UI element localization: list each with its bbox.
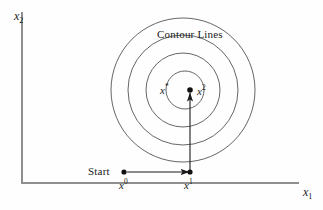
y-axis-label: x2: [14, 10, 23, 26]
contour-lines-label: Contour Lines: [157, 29, 223, 40]
optimum-point-label: x*: [160, 83, 169, 96]
point-marker-x2: [187, 87, 193, 93]
point-label-x2-superscript: 2: [202, 83, 206, 92]
point-label-x0-superscript: 0: [124, 177, 128, 186]
point-label-x2: x2: [197, 84, 206, 97]
path-point-markers: [121, 87, 192, 174]
contour-line-search-figure: x2 x1 Contour Lines x* x2 Start x0 x1: [0, 0, 323, 210]
point-marker-x0: [121, 169, 126, 174]
start-label: Start: [88, 166, 110, 177]
x-axis-label-subscript: 1: [308, 192, 312, 201]
optimum-point-label-superscript: *: [165, 82, 169, 91]
x-axis-label: x1: [303, 186, 312, 202]
point-label-x1: x1: [184, 178, 193, 191]
contour-circle-3: [128, 35, 238, 145]
point-label-x0: x0: [119, 178, 128, 191]
point-label-x1-superscript: 1: [189, 177, 193, 186]
point-marker-x1: [187, 169, 192, 174]
y-axis-label-subscript: 2: [19, 16, 23, 25]
contour-circle-2: [146, 53, 220, 127]
search-path: [127, 93, 190, 172]
